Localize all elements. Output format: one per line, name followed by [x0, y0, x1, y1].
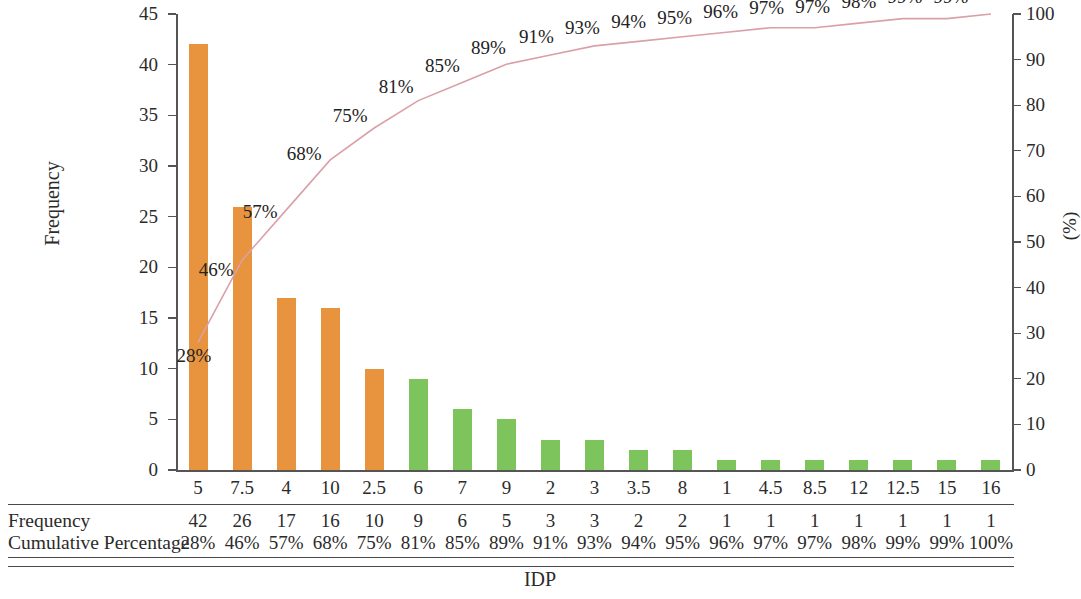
y-axis-right-tick [1013, 59, 1021, 60]
y-axis-right-tick-label: 100 [1026, 4, 1055, 23]
cumulative-percentage-label: 68% [277, 144, 331, 163]
y-axis-left-tick-label: 5 [112, 409, 158, 428]
cumulative-percentage-label: 28% [167, 346, 221, 365]
y-axis-left-tick-label: 40 [112, 55, 158, 74]
table-row-label: Cumulative Percentage [8, 532, 189, 553]
y-axis-right-tick-label: 60 [1026, 186, 1045, 205]
y-axis-left-tick-label: 20 [112, 257, 158, 276]
y-axis-right-tick [1013, 241, 1021, 242]
y-axis-left-title: Frequency [41, 134, 64, 274]
cumulative-percentage-label: 100% [972, 0, 1026, 1]
cumulative-percentage-label: 46% [189, 260, 243, 279]
x-axis-spine [176, 470, 1014, 472]
cumulative-percentage-label: 85% [415, 56, 469, 75]
y-axis-left-tick-label: 0 [112, 460, 158, 479]
y-axis-right-tick-label: 30 [1026, 323, 1045, 342]
y-axis-right-tick [1013, 13, 1021, 14]
y-axis-right-tick-label: 0 [1026, 460, 1036, 479]
y-axis-left-tick [168, 13, 176, 14]
y-axis-right-tick-label: 80 [1026, 95, 1045, 114]
y-axis-left-tick [168, 469, 176, 470]
y-axis-left-tick [168, 64, 176, 65]
y-axis-right-tick-label: 10 [1026, 414, 1045, 433]
cumulative-percentage-label: 57% [233, 202, 287, 221]
x-axis-tick-label: 16 [963, 478, 1019, 498]
cumulative-line-series [176, 14, 1013, 470]
y-axis-left-tick [168, 368, 176, 369]
y-axis-right-title: (%) [1059, 196, 1081, 256]
table-row-label: Frequency [8, 510, 90, 531]
y-axis-left-tick-label: 35 [112, 105, 158, 124]
y-axis-right-tick-label: 90 [1026, 50, 1045, 69]
y-axis-left-tick [168, 317, 176, 318]
y-axis-left-tick-label: 30 [112, 156, 158, 175]
y-axis-left-tick-label: 15 [112, 308, 158, 327]
y-axis-right-tick [1013, 196, 1021, 197]
table-cell: 100% [964, 532, 1018, 553]
y-axis-right-tick [1013, 333, 1021, 334]
table-cell: 1 [964, 510, 1018, 531]
y-axis-left-tick [168, 267, 176, 268]
y-axis-right-tick [1013, 378, 1021, 379]
y-axis-left-tick-label: 10 [112, 359, 158, 378]
y-axis-right-tick-label: 20 [1026, 369, 1045, 388]
y-axis-left-tick [168, 165, 176, 166]
y-axis-right-tick-label: 70 [1026, 141, 1045, 160]
y-axis-right-tick [1013, 287, 1021, 288]
table-rule [8, 566, 1014, 568]
y-axis-right-tick-label: 50 [1026, 232, 1045, 251]
y-axis-left-tick-label: 45 [112, 4, 158, 23]
y-axis-right-tick [1013, 105, 1021, 106]
y-axis-left-tick [168, 419, 176, 420]
cumulative-percentage-label: 99% [924, 0, 978, 6]
y-axis-left-tick [168, 115, 176, 116]
cumulative-percentage-label: 89% [461, 38, 515, 57]
cumulative-percentage-label: 75% [323, 106, 377, 125]
y-axis-left-tick-label: 25 [112, 207, 158, 226]
y-axis-right-tick [1013, 469, 1021, 470]
y-axis-right-tick-label: 40 [1026, 278, 1045, 297]
cumulative-percentage-label: 81% [369, 77, 423, 96]
table-rule [8, 557, 1014, 558]
y-axis-right-tick [1013, 150, 1021, 151]
y-axis-right-tick [1013, 424, 1021, 425]
y-axis-left-tick [168, 216, 176, 217]
x-axis-title: IDP [0, 568, 1080, 590]
table-rule [8, 504, 1014, 506]
